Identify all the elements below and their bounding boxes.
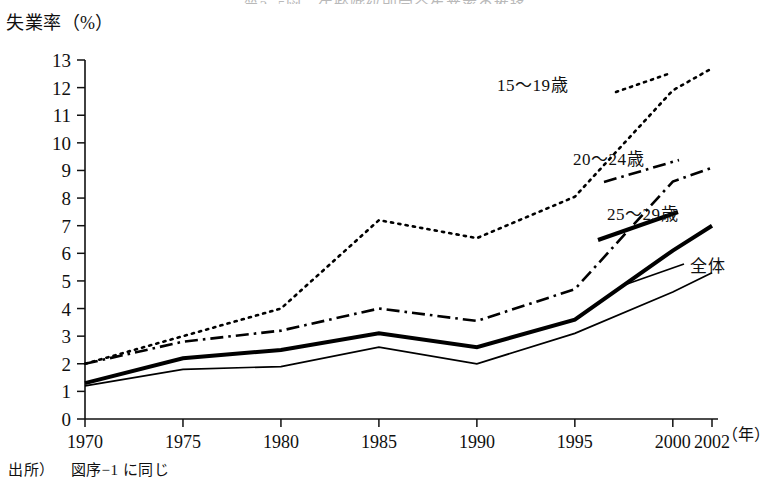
x-axis-tick-group: 19701975198019851990199520002002 (67, 419, 730, 452)
line-chart-plot: 012345678910111213 197019751980198519901… (0, 0, 779, 490)
footnote: 出所）図序−1 に同じ (8, 458, 169, 479)
series-leader-0 (616, 73, 671, 92)
y-tick-label: 10 (52, 133, 71, 154)
y-tick-label: 3 (62, 326, 72, 347)
footnote-text: 図序−1 に同じ (71, 462, 170, 478)
axis-lines (85, 60, 718, 419)
x-axis-caption: （年） (722, 421, 770, 445)
y-axis-tick-group: 012345678910111213 (52, 50, 85, 430)
y-tick-label: 6 (62, 243, 72, 264)
x-tick-label: 1980 (263, 432, 299, 452)
y-tick-label: 9 (62, 160, 72, 181)
y-tick-label: 2 (62, 354, 72, 375)
series-label-15-19: 15〜19歳 (497, 71, 568, 96)
y-tick-label: 5 (62, 271, 72, 292)
series-label-25-29: 25〜29歳 (607, 200, 678, 225)
series-label-total: 全体 (690, 252, 725, 277)
x-tick-label: 1970 (67, 432, 103, 452)
y-tick-label: 0 (62, 409, 72, 430)
x-tick-label: 1975 (165, 432, 201, 452)
y-tick-label: 13 (52, 50, 71, 71)
y-tick-label: 12 (52, 78, 71, 99)
series-path-group (85, 68, 712, 386)
x-tick-label: 2000 (655, 432, 691, 452)
series-leader-3 (627, 264, 684, 284)
y-tick-label: 7 (62, 216, 72, 237)
y-tick-label: 1 (62, 381, 72, 402)
figure-container: 第2−5図 年齢階級別完全失業率の推移 失業率（%） 0123456789101… (0, 0, 779, 490)
x-tick-label: 1990 (459, 432, 495, 452)
series-line-2 (85, 226, 712, 383)
x-tick-label: 1985 (361, 432, 397, 452)
series-label-20-24: 20〜24歳 (573, 145, 644, 170)
y-tick-label: 8 (62, 188, 72, 209)
footnote-source-label: 出所） (8, 462, 55, 478)
y-tick-label: 4 (62, 299, 72, 320)
y-tick-label: 11 (53, 105, 71, 126)
x-tick-label: 1995 (557, 432, 593, 452)
